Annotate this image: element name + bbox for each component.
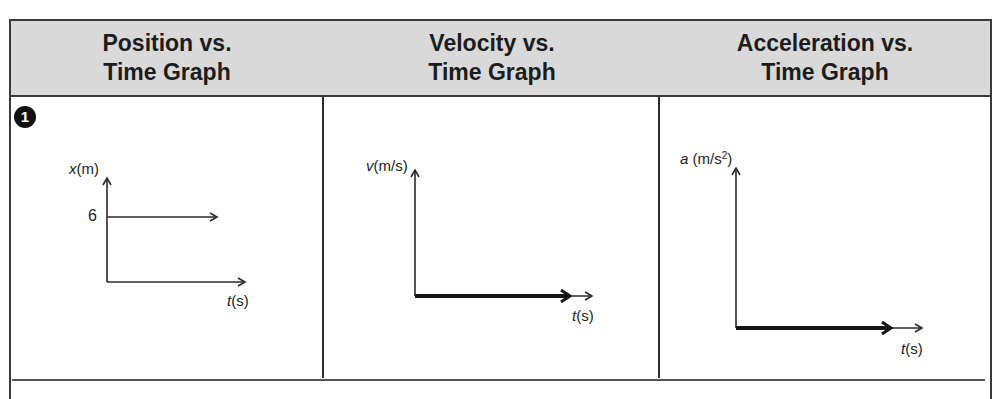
velocity-graph — [415, 170, 592, 296]
position-y-axis-label: x(m) — [69, 160, 99, 177]
acceleration-graph — [736, 168, 922, 328]
position-x-axis-label: t(s) — [227, 292, 249, 309]
velocity-y-axis-label: v(m/s) — [366, 157, 408, 174]
acceleration-y-axis-label: a (m/s2) — [680, 150, 732, 167]
acceleration-x-axis-label: t(s) — [901, 340, 923, 357]
position-graph — [107, 178, 245, 282]
velocity-x-axis-label: t(s) — [572, 307, 594, 324]
position-tick-6: 6 — [88, 207, 97, 225]
